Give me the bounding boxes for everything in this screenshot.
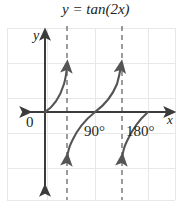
tangent-graph-figure: y = tan(2x) y x 0 90° 180° bbox=[0, 0, 181, 202]
x-axis-label: x bbox=[167, 113, 173, 126]
graph-canvas bbox=[0, 0, 181, 202]
tan-branch-1 bbox=[45, 66, 67, 112]
y-axis-label: y bbox=[33, 29, 39, 43]
graph-title: y = tan(2x) bbox=[62, 2, 130, 17]
origin-label: 0 bbox=[26, 115, 34, 130]
x-tick-label-180: 180° bbox=[126, 124, 155, 139]
x-tick-label-90: 90° bbox=[84, 124, 105, 139]
